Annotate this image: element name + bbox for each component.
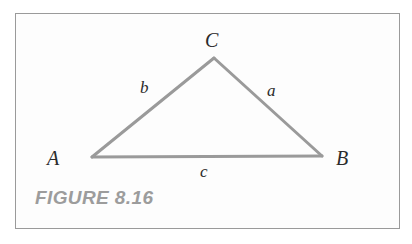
side-label-c: c [200,163,208,180]
figure-caption: FIGURE 8.16 [35,187,153,209]
side-label-b: b [140,79,149,96]
vertex-label-b: B [336,148,348,168]
figure-page: C A B b a c FIGURE 8.16 [0,0,412,244]
side-label-a: a [267,82,276,99]
vertex-label-c: C [205,30,218,50]
vertex-label-a: A [47,148,59,168]
